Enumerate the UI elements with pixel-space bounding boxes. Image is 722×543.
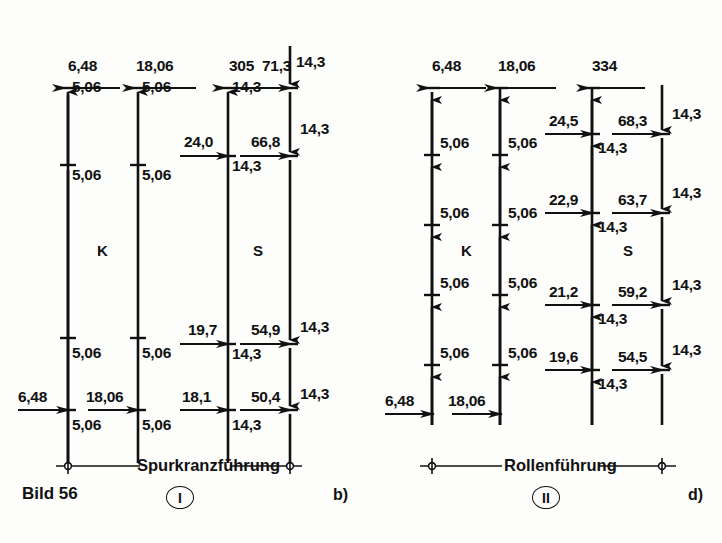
right-col3-seg2-value: 14,3 <box>598 219 627 235</box>
right-col2-top-value: 18,06 <box>498 58 535 74</box>
left-roman-badge: I <box>166 486 194 509</box>
panel-d-label: d) <box>688 487 703 503</box>
left-col3-top-value: 305 <box>229 58 254 74</box>
right-col1-bottom-value: 6,48 <box>385 393 414 409</box>
right-col4-force3-value: 59,2 <box>618 284 647 300</box>
right-col4-force1-value: 68,3 <box>618 113 647 129</box>
left-col4-force3-value: 54,9 <box>251 322 280 338</box>
right-col1-seg3-value: 5,06 <box>440 275 469 291</box>
right-col3-seg4-value: 14,3 <box>598 376 627 392</box>
left-col3-axis <box>220 88 236 463</box>
right-zone-k-label: K <box>461 243 472 258</box>
left-col4-seg2-value: 14,3 <box>300 121 329 137</box>
left-col4-force2-value: 66,8 <box>251 134 280 150</box>
left-col3-force4-value: 18,1 <box>182 389 211 405</box>
left-zone-k-label: K <box>97 243 108 258</box>
left-col4-seg3-value: 14,3 <box>300 319 329 335</box>
right-roman-label: II <box>542 491 550 505</box>
left-col1-seg2-value: 5,06 <box>72 167 101 183</box>
right-col3-force2-value: 24,5 <box>549 113 578 129</box>
figure-canvas: 6,48 5,06 5,06 5,06 5,06 6,48 18,06 5,06… <box>0 0 722 543</box>
left-col2-seg3-value: 5,06 <box>142 345 171 361</box>
right-col4-seg3-value: 14,3 <box>672 277 701 293</box>
left-col4-force1-value: 71,3 <box>262 58 291 74</box>
left-col4-seg1-value: 14,3 <box>296 54 325 70</box>
left-col1-seg1-value: 5,06 <box>72 79 101 95</box>
right-col2-seg1-value: 5,06 <box>508 135 537 151</box>
right-zone-s-label: S <box>623 243 633 258</box>
left-col1-axis <box>60 88 76 463</box>
right-col3-seg3-value: 14,3 <box>598 311 627 327</box>
left-col4-force4-value: 50,4 <box>251 389 280 405</box>
right-col1-seg2-value: 5,06 <box>440 205 469 221</box>
right-caption: Rollenführung <box>504 457 617 474</box>
right-col4-seg4-value: 14,3 <box>672 342 701 358</box>
left-col3-seg4-value: 14,3 <box>232 417 261 433</box>
left-col1-bottom-value: 6,48 <box>18 389 47 405</box>
panel-b-label: b) <box>333 487 348 503</box>
right-col2-seg2-value: 5,06 <box>508 205 537 221</box>
left-col3-seg2-value: 14,3 <box>232 158 261 174</box>
left-col3-force3-value: 19,7 <box>188 322 217 338</box>
left-col4-axis <box>282 46 298 463</box>
left-zone-s-label: S <box>253 243 263 258</box>
right-col1-axis <box>424 88 440 425</box>
right-col2-bottom-value: 18,06 <box>448 393 485 409</box>
right-col3-seg1-value: 14,3 <box>598 140 627 156</box>
right-col1-seg4-value: 5,06 <box>440 345 469 361</box>
right-col4-axis <box>654 85 670 425</box>
right-col4-seg2-value: 14,3 <box>672 185 701 201</box>
right-col2-axis <box>492 88 508 425</box>
left-col2-bottom-value: 18,06 <box>86 389 123 405</box>
left-col2-seg4-value: 5,06 <box>142 417 171 433</box>
left-col2-top-value: 18,06 <box>136 58 173 74</box>
right-col2-seg3-value: 5,06 <box>508 275 537 291</box>
left-col2-seg1-value: 5,06 <box>142 79 171 95</box>
right-roman-badge: II <box>532 486 560 509</box>
right-col3-force3-value: 22,9 <box>549 192 578 208</box>
left-col3-seg1-value: 14,3 <box>232 79 261 95</box>
right-col3-force4-value: 21,2 <box>549 284 578 300</box>
right-col1-seg1-value: 5,06 <box>440 135 469 151</box>
left-col3-seg3-value: 14,3 <box>232 346 261 362</box>
left-caption: Spurkranzführung <box>137 457 280 474</box>
right-col3-force5-value: 19,6 <box>549 349 578 365</box>
left-col3-force2-value: 24,0 <box>184 134 213 150</box>
right-col1-top-value: 6,48 <box>432 58 461 74</box>
left-col1-seg4-value: 5,06 <box>72 417 101 433</box>
figure-number-label: Bild 56 <box>22 485 78 502</box>
right-col4-force2-value: 63,7 <box>618 192 647 208</box>
right-col4-seg1-value: 14,3 <box>672 106 701 122</box>
left-col4-seg4-value: 14,3 <box>300 386 329 402</box>
right-col2-seg4-value: 5,06 <box>508 345 537 361</box>
left-col2-seg2-value: 5,06 <box>142 167 171 183</box>
right-col3-top-value: 334 <box>592 58 617 74</box>
left-roman-label: I <box>178 491 182 505</box>
left-col1-top-value: 6,48 <box>68 58 97 74</box>
left-col2-axis <box>130 88 146 463</box>
right-col4-force4-value: 54,5 <box>618 349 647 365</box>
left-col1-seg3-value: 5,06 <box>72 345 101 361</box>
